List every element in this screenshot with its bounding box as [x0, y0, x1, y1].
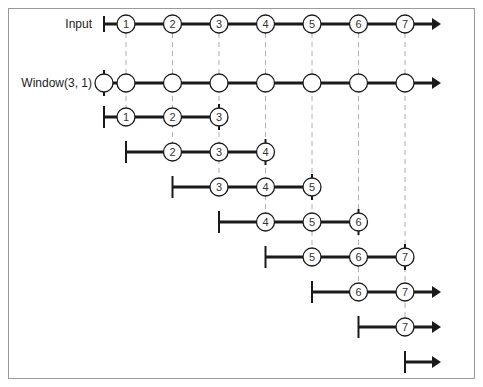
marble-value: 5: [309, 251, 315, 263]
marble-value: 2: [169, 111, 175, 123]
marble-value: 7: [402, 18, 408, 30]
marble-value: 2: [169, 146, 175, 158]
marble-value: 6: [355, 18, 361, 30]
marble-value: 3: [216, 181, 222, 193]
marble-value: 4: [262, 181, 268, 193]
marble-value: 5: [309, 216, 315, 228]
marble-value: 6: [355, 251, 361, 263]
marble-circle: [257, 74, 275, 92]
marble-value: 4: [262, 216, 268, 228]
marble-value: 3: [216, 18, 222, 30]
marble-value: 5: [309, 18, 315, 30]
marble-circle: [210, 74, 228, 92]
marble-value: 4: [262, 18, 268, 30]
marble-value: 2: [169, 18, 175, 30]
marble-circle: [303, 74, 321, 92]
marble-circle: [117, 74, 135, 92]
window-label: Window(3, 1): [21, 76, 92, 90]
marble-circle: [396, 74, 414, 92]
marble-value: 1: [123, 18, 129, 30]
marble-circle: [95, 74, 113, 92]
marble-value: 7: [402, 286, 408, 298]
input-label: Input: [65, 17, 92, 31]
window-open-arrow-icon: [432, 321, 441, 333]
window-open-arrow-icon: [432, 286, 441, 298]
marble-value: 5: [309, 181, 315, 193]
marble-value: 3: [216, 146, 222, 158]
input-arrow-icon: [432, 18, 441, 30]
marble-circle: [164, 74, 182, 92]
window-open-arrow-icon: [432, 356, 441, 368]
marble-value: 7: [402, 321, 408, 333]
marble-value: 7: [402, 251, 408, 263]
marble-diagram: Input1234567Window(3, 1)1232343454565676…: [0, 0, 483, 387]
marble-value: 3: [216, 111, 222, 123]
marble-value: 6: [355, 286, 361, 298]
marble-circle: [350, 74, 368, 92]
marble-value: 1: [123, 111, 129, 123]
marble-value: 6: [355, 216, 361, 228]
window-arrow-icon: [432, 77, 441, 89]
marble-value: 4: [262, 146, 268, 158]
